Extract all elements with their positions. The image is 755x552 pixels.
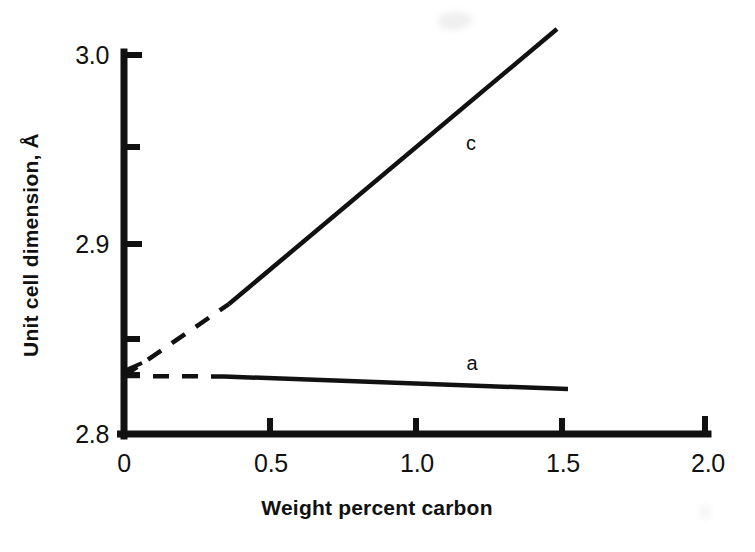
y-tick-label-3.0: 3.0 bbox=[57, 41, 109, 70]
y-tick-label-2.9: 2.9 bbox=[57, 230, 109, 259]
y-tick-label-2.8: 2.8 bbox=[57, 420, 109, 449]
x-tick-label-1.0: 1.0 bbox=[400, 449, 434, 478]
series-label-c: c bbox=[466, 132, 476, 155]
x-tick-label-0: 0 bbox=[117, 449, 131, 478]
chart-figure: 3.0 2.9 2.8 0 0.5 1.0 1.5 2.0 Weight per… bbox=[0, 0, 755, 552]
y-axis-title: Unit cell dimension, Å bbox=[19, 133, 43, 357]
x-tick-label-1.5: 1.5 bbox=[546, 449, 580, 478]
series-label-a: a bbox=[466, 352, 477, 375]
chart-plot-area bbox=[0, 0, 755, 552]
x-tick-label-2.0: 2.0 bbox=[691, 449, 725, 478]
series-a-solid-segment bbox=[224, 377, 568, 390]
x-axis-title: Weight percent carbon bbox=[261, 496, 492, 520]
series-c-solid-segment bbox=[229, 29, 557, 304]
x-tick-label-0.5: 0.5 bbox=[254, 449, 288, 478]
series-a-dashed-segment bbox=[124, 376, 224, 377]
